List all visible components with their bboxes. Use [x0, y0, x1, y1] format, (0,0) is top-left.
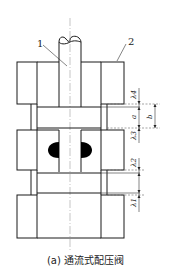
upper-land: [31, 104, 107, 130]
valve-diagram: 1 2 λ4 a b λ3 λ2 λ1: [0, 0, 171, 278]
leader-1: [43, 45, 67, 66]
leader-2: [117, 44, 126, 61]
dim-lambda1: λ1: [130, 198, 138, 208]
part-label-2: 2: [128, 36, 134, 47]
part-label-1: 1: [37, 38, 43, 49]
dim-lambda4: λ4: [130, 90, 138, 100]
lower-land: [31, 170, 107, 195]
housing-middle: [17, 130, 124, 170]
dimension-lines: [138, 88, 157, 212]
dim-lambda3: λ3: [130, 131, 138, 141]
dim-a: a: [130, 115, 138, 119]
housing-top: [17, 62, 124, 104]
figure-caption: (a) 通流式配压阀: [0, 252, 171, 267]
housing-bottom: [17, 195, 124, 238]
dim-b: b: [146, 114, 154, 119]
dim-lambda2: λ2: [130, 158, 138, 168]
